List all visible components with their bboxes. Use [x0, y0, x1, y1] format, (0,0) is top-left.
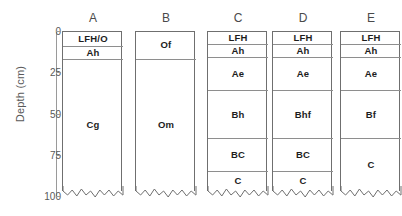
- y-axis-tick-mark: [56, 114, 61, 115]
- profile-bottom-edge: [340, 186, 402, 208]
- y-axis-tick-mark: [56, 31, 61, 32]
- y-axis-tick-mark: [56, 72, 61, 73]
- soil-horizon-label: Cg: [86, 120, 99, 130]
- profile-header-label: A: [62, 11, 124, 25]
- soil-profile-column-c[interactable]: CLFHAhAeBhBCC: [207, 31, 269, 196]
- y-axis-tick: 50: [0, 114, 61, 115]
- soil-horizon-label: Ah: [296, 46, 309, 56]
- profile-body: LFHAhAeBfC: [340, 31, 402, 196]
- profile-body: LFHAhAeBhfBCC: [272, 31, 334, 196]
- profile-bottom-edge: [207, 186, 269, 208]
- y-axis-tick: 75: [0, 155, 61, 156]
- soil-horizon[interactable]: LFH: [340, 31, 402, 44]
- profile-bottom-zigzag-icon: [207, 186, 269, 208]
- soil-profile-column-d[interactable]: DLFHAhAeBhfBCC: [272, 31, 334, 196]
- soil-horizon[interactable]: Cg: [62, 59, 124, 191]
- y-axis-tick-mark: [56, 196, 61, 197]
- profile-bottom-edge: [135, 186, 197, 208]
- y-axis-tick: 0: [0, 31, 61, 32]
- profile-header-label: C: [207, 11, 269, 25]
- profile-header-label: E: [340, 11, 402, 25]
- soil-profile-column-b[interactable]: BOfOm: [135, 31, 197, 196]
- y-axis-tick: 100: [0, 196, 61, 197]
- soil-horizon-label: C: [367, 160, 374, 170]
- profile-bottom-edge: [62, 186, 124, 208]
- soil-horizon-label: BC: [296, 150, 310, 160]
- soil-horizon-label: LFH: [293, 33, 312, 43]
- soil-horizon-label: LFH: [361, 33, 380, 43]
- soil-horizon-label: Bhf: [295, 110, 311, 120]
- profile-body: OfOm: [135, 31, 197, 196]
- soil-horizon-label: Ah: [86, 48, 99, 58]
- soil-horizon[interactable]: Ah: [272, 44, 334, 57]
- soil-horizon[interactable]: Bf: [340, 90, 402, 138]
- soil-horizon-label: C: [299, 176, 306, 186]
- soil-horizon[interactable]: Bhf: [272, 90, 334, 138]
- soil-horizon[interactable]: BC: [207, 138, 269, 171]
- profile-bottom-zigzag-icon: [272, 186, 334, 208]
- soil-horizon[interactable]: C: [340, 138, 402, 191]
- soil-horizon[interactable]: LFH: [207, 31, 269, 44]
- soil-horizon-label: Ah: [364, 46, 377, 56]
- soil-horizon[interactable]: LFH: [272, 31, 334, 44]
- soil-horizon-label: BC: [231, 150, 245, 160]
- soil-horizon-label: Ah: [231, 46, 244, 56]
- soil-profile-column-a[interactable]: ALFH/OAhCg: [62, 31, 124, 196]
- soil-horizon[interactable]: Om: [135, 59, 197, 191]
- soil-horizon[interactable]: Ah: [207, 44, 269, 57]
- profile-bottom-zigzag-icon: [62, 186, 124, 208]
- profile-body: LFHAhAeBhBCC: [207, 31, 269, 196]
- soil-horizon-label: Of: [161, 40, 172, 50]
- soil-horizon-label: Om: [158, 120, 174, 130]
- soil-horizon[interactable]: BC: [272, 138, 334, 171]
- soil-horizon[interactable]: Ah: [62, 46, 124, 59]
- soil-horizon-label: Ae: [232, 69, 245, 79]
- profile-header-label: D: [272, 11, 334, 25]
- soil-horizon[interactable]: Ae: [340, 57, 402, 90]
- soil-horizon-label: C: [234, 176, 241, 186]
- y-axis-tick-mark: [56, 155, 61, 156]
- profile-body: LFH/OAhCg: [62, 31, 124, 196]
- soil-horizon[interactable]: Bh: [207, 90, 269, 138]
- soil-horizon[interactable]: Ae: [207, 57, 269, 90]
- soil-horizon[interactable]: Ae: [272, 57, 334, 90]
- soil-horizon-label: LFH/O: [78, 34, 108, 44]
- profile-header-label: B: [135, 11, 197, 25]
- y-axis-tick: 25: [0, 72, 61, 73]
- soil-horizon[interactable]: Ah: [340, 44, 402, 57]
- soil-horizon-label: LFH: [228, 33, 247, 43]
- soil-horizon[interactable]: LFH/O: [62, 31, 124, 46]
- profile-bottom-zigzag-icon: [340, 186, 402, 208]
- profile-bottom-edge: [272, 186, 334, 208]
- soil-profile-column-e[interactable]: ELFHAhAeBfC: [340, 31, 402, 196]
- profile-bottom-zigzag-icon: [135, 186, 197, 208]
- soil-horizon-label: Ae: [365, 69, 378, 79]
- soil-horizon[interactable]: Of: [135, 31, 197, 59]
- soil-horizon-label: Bh: [231, 110, 244, 120]
- soil-horizon-label: Bf: [366, 110, 376, 120]
- soil-horizon-label: Ae: [297, 69, 310, 79]
- y-axis-label: Depth (cm): [14, 34, 26, 154]
